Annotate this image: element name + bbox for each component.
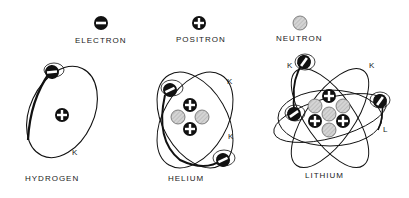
helium-shell-k-2: K	[228, 132, 234, 141]
nucleus	[171, 98, 209, 136]
legend-positron-label: POSITRON	[176, 35, 226, 44]
lithium-label: LITHIUM	[305, 171, 344, 180]
atom-diagram	[0, 0, 409, 198]
lithium-shell-k-2: K	[369, 61, 375, 70]
hydrogen-label: HYDROGEN	[25, 174, 79, 183]
electron-minus-icon	[94, 16, 108, 30]
positron-icon	[55, 108, 69, 122]
legend-neutron-label: NEUTRON	[276, 34, 323, 43]
neutron-hatched-icon	[293, 16, 307, 30]
positron-plus-icon	[192, 16, 206, 30]
helium-label: HELIUM	[168, 174, 204, 183]
hydrogen-atom	[13, 55, 112, 169]
lithium-atom	[269, 52, 391, 179]
helium-shell-k-1: K	[227, 77, 233, 86]
legend-electron-label: ELECTRON	[75, 36, 127, 45]
hydrogen-shell-k: K	[72, 148, 78, 157]
electron-icon	[161, 81, 180, 100]
lithium-shell-k-1: K	[287, 61, 293, 70]
lithium-shell-l: L	[383, 125, 388, 134]
